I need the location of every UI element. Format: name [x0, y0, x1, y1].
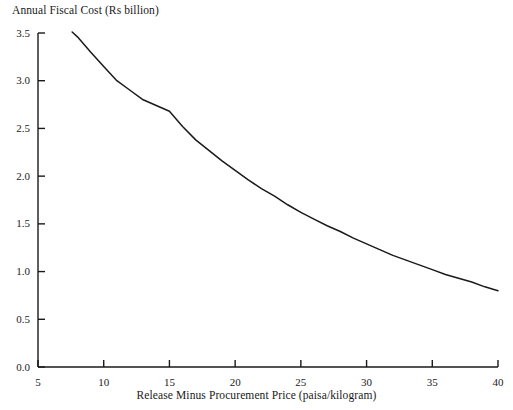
x-tick-label: 40 — [478, 377, 513, 388]
x-tick-label: 30 — [347, 377, 387, 388]
x-tick-label: 10 — [84, 377, 124, 388]
x-tick-label: 20 — [215, 377, 255, 388]
y-tick-label: 3.0 — [0, 75, 30, 86]
x-tick-label: 35 — [412, 377, 452, 388]
y-tick-label: 0.5 — [0, 314, 30, 325]
y-axis-ticks — [38, 33, 45, 367]
x-axis-ticks — [38, 360, 498, 367]
chart-figure: Annual Fiscal Cost (Rs billion) 0.00.51.… — [0, 0, 513, 410]
y-tick-label: 2.5 — [0, 123, 30, 134]
y-tick-label: 3.5 — [0, 28, 30, 39]
y-tick-label: 2.0 — [0, 171, 30, 182]
x-tick-label: 15 — [149, 377, 189, 388]
axis-lines — [38, 33, 498, 367]
y-tick-label: 1.0 — [0, 266, 30, 277]
x-tick-label: 25 — [281, 377, 321, 388]
chart-plot-area — [0, 0, 513, 410]
data-series-line — [72, 32, 498, 291]
x-axis-title: Release Minus Procurement Price (paisa/k… — [0, 389, 513, 401]
y-tick-label: 1.5 — [0, 218, 30, 229]
x-tick-label: 5 — [18, 377, 58, 388]
y-tick-label: 0.0 — [0, 362, 30, 373]
